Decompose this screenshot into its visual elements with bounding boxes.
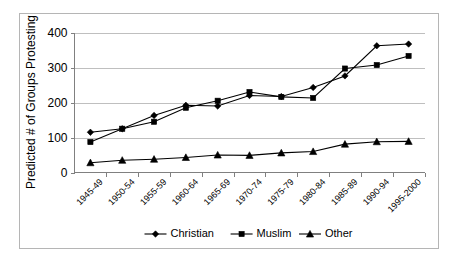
marker-christian-2 [151,112,157,118]
legend-item-muslim[interactable]: Muslim [231,227,292,239]
x-tick-label-4: 1965-69 [202,177,232,207]
marker-muslim-0 [88,139,93,144]
marker-muslim-7 [311,95,316,100]
marker-muslim-6 [279,94,284,99]
x-tick-label-2: 1955-59 [138,177,168,207]
x-tick-label-6: 1975-79 [265,177,295,207]
legend-item-christian[interactable]: Christian [145,227,214,239]
x-tick-labels-group: 1945-491950-541955-591960-641965-691970-… [74,177,423,215]
series-line-christian [90,44,408,132]
series-other [87,138,412,166]
y-tick-label-300: 300 [47,61,67,75]
legend-label-other: Other [325,227,353,239]
marker-muslim-4 [215,98,220,103]
y-tick-label-400: 400 [47,26,67,40]
x-tick-label-9: 1990-94 [361,177,391,207]
x-tick-label-0: 1945-49 [74,177,104,207]
x-tick-label-8: 1985-89 [329,177,359,207]
x-tick-label-10: 1995-2000 [386,177,424,215]
marker-christian-7 [310,84,316,90]
marker-muslim-1 [120,126,125,131]
line-chart: 0100200300400 1945-491950-541955-591960-… [0,0,464,264]
legend-item-other[interactable]: Other [299,227,353,239]
legend-square-marker-muslim [239,231,244,236]
chart-figure: 0100200300400 1945-491950-541955-591960-… [0,0,464,264]
legend-label-muslim: Muslim [257,227,292,239]
x-tick-label-7: 1980-84 [297,177,327,207]
legend-diamond-marker-christian [152,231,158,237]
y-axis-title-group: Predicted # of Groups Protesting [24,15,38,189]
y-tick-label-0: 0 [61,166,68,180]
marker-christian-0 [87,129,93,135]
y-tick-label-200: 200 [47,96,67,110]
x-tick-label-5: 1970-74 [233,177,263,207]
x-tick-label-3: 1960-64 [170,177,200,207]
x-tick-label-1: 1950-54 [106,177,136,207]
legend-label-christian: Christian [171,227,214,239]
marker-muslim-2 [151,119,156,124]
marker-muslim-5 [247,89,252,94]
marker-muslim-9 [374,62,379,67]
y-tick-labels-group: 0100200300400 [47,26,67,180]
marker-christian-10 [405,41,411,47]
marker-muslim-10 [406,53,411,58]
chart-legend: ChristianMuslimOther [145,227,353,239]
series-christian [87,41,412,136]
y-tick-label-100: 100 [47,131,67,145]
marker-muslim-8 [342,66,347,71]
gridlines-group [75,34,425,139]
marker-muslim-3 [183,105,188,110]
y-axis-title: Predicted # of Groups Protesting [24,15,38,189]
